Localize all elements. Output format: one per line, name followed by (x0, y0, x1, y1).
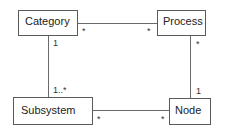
multiplicity-subsystem-node-to: * (161, 115, 165, 124)
class-node[interactable]: Node (169, 98, 211, 125)
multiplicity-category-process-to: * (147, 27, 151, 36)
class-category[interactable]: Category (18, 10, 78, 36)
association-category-subsystem (48, 35, 49, 97)
class-label: Process (163, 15, 203, 27)
association-subsystem-node (92, 110, 169, 111)
multiplicity-subsystem-node-from: * (97, 115, 101, 124)
association-process-node (190, 35, 191, 98)
multiplicity-category-subsystem-to: 1..* (53, 86, 67, 95)
multiplicity-category-process-from: * (82, 27, 86, 36)
multiplicity-process-node-to: 1 (196, 87, 201, 96)
class-subsystem[interactable]: Subsystem (13, 97, 93, 125)
multiplicity-process-node-from: * (196, 40, 200, 49)
association-category-process (77, 23, 157, 24)
class-label: Category (25, 15, 70, 27)
multiplicity-category-subsystem-from: 1 (53, 39, 58, 48)
class-process[interactable]: Process (157, 10, 206, 36)
class-label: Node (175, 104, 201, 116)
class-label: Subsystem (21, 104, 75, 116)
